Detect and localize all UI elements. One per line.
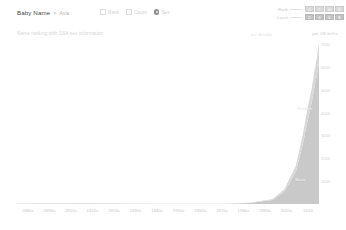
radio-selected-icon[interactable]	[154, 9, 160, 15]
stat-cell: 9	[335, 6, 344, 12]
x-axis-tick: 1890s	[43, 208, 55, 213]
y-axis: 1000200030004000500060007000	[321, 44, 346, 204]
stat-row-cells: 4 1 8 9	[305, 6, 344, 12]
y-axis-tick: 5000	[321, 87, 330, 92]
chart-subtitle: Name ranking with SSA sex information	[17, 31, 103, 36]
x-axis-tick: 1950s	[173, 208, 185, 213]
x-axis-tick: 1910s	[87, 208, 99, 213]
stat-cell: 1	[315, 6, 324, 12]
stat-row-label: Count	[277, 15, 288, 20]
x-axis-tick: 2010	[303, 208, 313, 213]
breadcrumb[interactable]: Baby Name > Ava	[17, 9, 69, 16]
stat-cell: 8	[325, 6, 334, 12]
stat-row-rule	[290, 9, 303, 10]
x-axis-tick: 1960s	[194, 208, 206, 213]
checkbox-icon[interactable]	[100, 9, 106, 15]
baby-name-explorer-app: Baby Name > Ava Rank Count Sex Rank	[0, 0, 346, 230]
header-toolbar: Rank Count Sex	[100, 9, 170, 15]
y-axis-tick: 3000	[321, 133, 330, 138]
series-label-male: Male	[295, 176, 305, 181]
x-axis-tick: 1880s	[22, 208, 34, 213]
toolbar-option-sex[interactable]: Sex	[154, 9, 170, 15]
stat-row: Rank 4 1 8 9	[280, 6, 344, 13]
app-header: Baby Name > Ava Rank Count Sex Rank	[0, 0, 346, 24]
stat-cell: 2	[305, 14, 314, 20]
y-axis-tick: 2000	[321, 156, 330, 161]
breadcrumb-current-name: Ava	[60, 10, 70, 16]
stat-row-label: Rank	[278, 7, 288, 12]
x-axis-tick: 1900s	[65, 208, 77, 213]
area-series-group	[17, 44, 319, 204]
series-caption: per decade	[251, 32, 272, 37]
header-stat-panel: Rank 4 1 8 9 Count 2 4 5 8	[280, 6, 344, 22]
y-axis-tick: 7000	[321, 42, 330, 47]
y-axis-tick: 1000	[321, 179, 330, 184]
stat-cell: 5	[325, 14, 334, 20]
stacked-area-chart: Female Male	[17, 44, 319, 204]
x-axis-tick: 1930s	[130, 208, 142, 213]
stat-cell: 4	[305, 6, 314, 12]
stat-cell: 4	[315, 14, 324, 20]
x-axis-tick: 1990s	[259, 208, 271, 213]
toolbar-option-rank[interactable]: Rank	[100, 9, 119, 15]
toolbar-option-count[interactable]: Count	[126, 9, 147, 15]
area-series-male	[17, 44, 319, 204]
area-series-female	[17, 62, 319, 204]
stat-row-rule	[290, 17, 303, 18]
x-axis-tick: 1970s	[216, 208, 228, 213]
x-axis-tick: 1980s	[238, 208, 250, 213]
series-label-female: Female	[297, 106, 313, 111]
y-axis-tick: 4000	[321, 110, 330, 115]
x-axis-tick: 1920s	[108, 208, 120, 213]
x-axis-tick: 1940s	[151, 208, 163, 213]
toolbar-option-sex-label: Sex	[161, 10, 169, 15]
stat-row: Count 2 4 5 8	[280, 14, 344, 21]
stat-cell: 8	[335, 14, 344, 20]
toolbar-option-count-label: Count	[134, 10, 147, 15]
x-axis-tick: 2000s	[281, 208, 293, 213]
x-axis: 1880s1890s1900s1910s1920s1930s1940s1950s…	[17, 206, 319, 218]
y-axis-unit-note: per 1M births	[312, 31, 338, 36]
subtitle-row: Name ranking with SSA sex information pe…	[0, 31, 346, 41]
breadcrumb-root[interactable]: Baby Name	[17, 9, 50, 16]
chart-canvas	[17, 44, 319, 204]
toolbar-option-rank-label: Rank	[108, 10, 119, 15]
breadcrumb-separator-icon: >	[53, 10, 56, 16]
stat-row-cells: 2 4 5 8	[305, 14, 344, 20]
checkbox-icon[interactable]	[126, 9, 132, 15]
y-axis-tick: 6000	[321, 64, 330, 69]
